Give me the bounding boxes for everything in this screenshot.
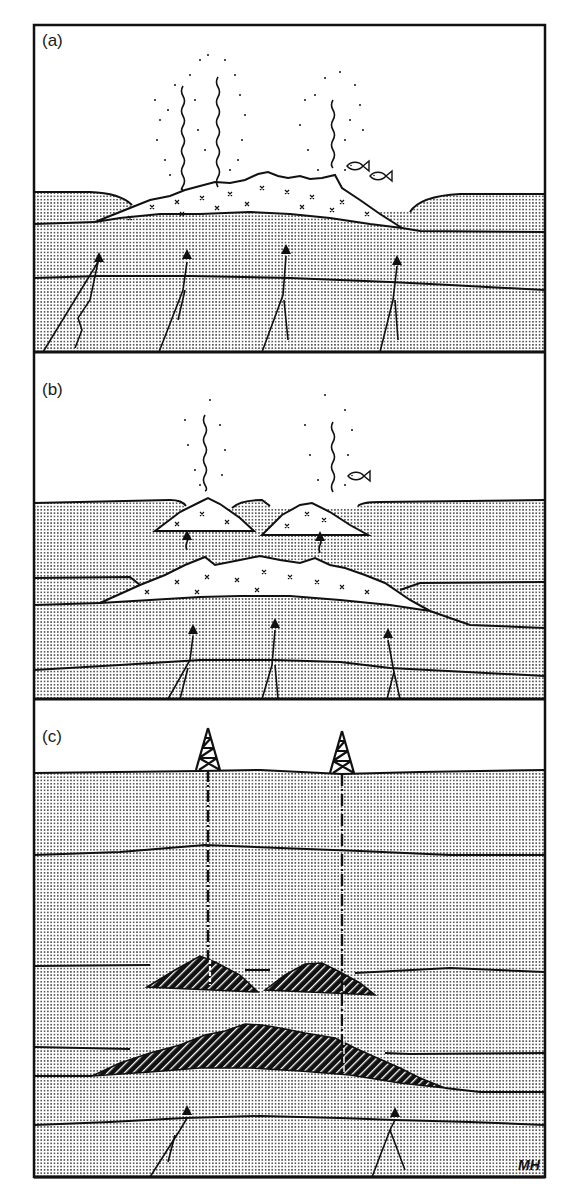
fish-icon — [348, 471, 370, 481]
artist-signature: MH — [518, 1157, 541, 1173]
plume-particles — [184, 394, 353, 486]
drilling-rig-icon — [330, 731, 354, 773]
panel-label-b: (b) — [42, 380, 63, 399]
drilling-rig-icon — [196, 728, 220, 770]
panel-label-c: (c) — [42, 727, 62, 746]
geologic-cross-section-figure: (a) — [0, 0, 576, 1202]
panel-a: (a) — [34, 25, 545, 352]
panel-label-a: (a) — [42, 31, 63, 50]
hydrothermal-plumes — [204, 415, 335, 492]
panel-c: (c) MH — [34, 727, 545, 1177]
panel-b: (b) — [34, 380, 545, 699]
